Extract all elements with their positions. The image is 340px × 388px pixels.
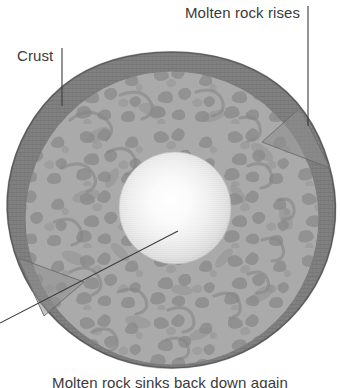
molten-rock-label: Molten rock rises	[185, 4, 300, 22]
core-layer	[119, 152, 231, 264]
core-halftone-overlay	[119, 152, 231, 264]
bottom-caption-label: Molten rock sinks back down again	[52, 374, 288, 388]
earth-cross-section-figure: Crust Molten rock rises Molten rock sink…	[0, 0, 340, 388]
crust-label: Crust	[17, 47, 53, 65]
